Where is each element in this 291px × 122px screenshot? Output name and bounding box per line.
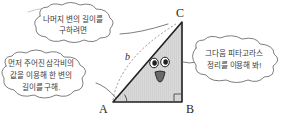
bubble-left-line-2: 값을 이용해 한 변의	[10, 70, 71, 80]
vertex-label-a: A	[99, 102, 108, 116]
bubble-top-line-2: 구하려면	[59, 25, 87, 35]
vertex-label-b: B	[186, 102, 194, 116]
side-label-b: b	[125, 51, 130, 62]
bubble-left-tail	[96, 83, 116, 98]
speech-bubble-top[interactable]: 나머지 변의 길이를 구하려면	[35, 3, 168, 43]
bubble-top-line-1: 나머지 변의 길이를	[43, 14, 102, 24]
bubble-right-shape	[193, 36, 278, 83]
vertex-label-c: C	[176, 6, 184, 20]
right-pupil	[163, 59, 168, 64]
speech-bubble-right[interactable]: 그다음 피타고라스 정리를 이용해 봐!	[183, 36, 278, 83]
bubble-right-line-2: 정리를 이용해 봐!	[207, 60, 261, 70]
speech-bubble-left[interactable]: 먼저 주어진 삼각비의 값을 이용해 한 변의 길이를 구해.	[2, 50, 116, 98]
bubble-right-line-1: 그다음 피타고라스	[205, 49, 262, 58]
bubble-left-line-3: 길이를 구해.	[22, 82, 61, 92]
math-illustration-svg: A B C b 나머지 변의 길이를 구하려면 먼저 주어진 삼각비의 값을 이…	[0, 0, 291, 122]
bubble-left-line-1: 먼저 주어진 삼각비의	[8, 58, 74, 68]
bubble-top-tail	[120, 24, 168, 34]
illustration-canvas: A B C b 나머지 변의 길이를 구하려면 먼저 주어진 삼각비의 값을 이…	[0, 0, 291, 122]
left-pupil	[152, 60, 157, 65]
